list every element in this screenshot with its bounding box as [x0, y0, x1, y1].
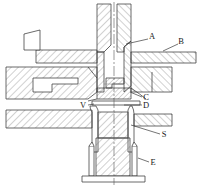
- lower-right-flange-arm: [134, 114, 172, 126]
- upper-stem-left-wall: [97, 4, 111, 52]
- cross-section-diagram: A B C D V S E: [0, 0, 200, 187]
- callout-label-E: E: [150, 157, 155, 167]
- leader-line-B: [163, 44, 178, 51]
- right-body-block: [131, 67, 172, 92]
- lower-rod-right: [132, 146, 137, 176]
- callout-label-A: A: [149, 31, 156, 41]
- upper-left-angled-tab: [24, 30, 40, 50]
- upper-shoulder-left: [97, 52, 104, 92]
- lower-shaft-lower: [96, 138, 130, 176]
- lower-shaft-upper: [98, 112, 128, 138]
- gasket-plate: [92, 101, 140, 105]
- lower-left-flange-arm: [6, 110, 92, 128]
- right-flange-arm: [131, 52, 196, 63]
- callout-label-V: V: [80, 100, 87, 110]
- leader-line-E: [138, 158, 149, 162]
- callout-label-S: S: [162, 129, 167, 139]
- upper-shoulder-right: [124, 41, 131, 92]
- left-flange-arm: [36, 50, 97, 63]
- technical-drawing-figure: A B C D V S E: [0, 0, 200, 187]
- callout-label-D: D: [143, 100, 149, 110]
- lower-rod-left: [89, 146, 94, 176]
- inner-seat-plug: [106, 78, 124, 88]
- callout-label-B: B: [178, 36, 184, 46]
- left-body-block: [6, 67, 97, 99]
- base-plate: [82, 176, 145, 182]
